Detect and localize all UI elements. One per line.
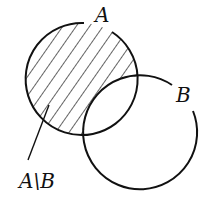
venn-diagram: A B A\B <box>0 0 220 207</box>
label-a-minus-b: A\B <box>17 169 55 193</box>
label-a: A <box>93 3 109 27</box>
label-b: B <box>175 83 191 107</box>
